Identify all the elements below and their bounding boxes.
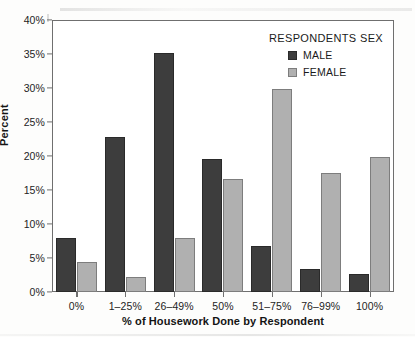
- x-tick-label: 26–49%: [155, 300, 194, 312]
- legend-entries: MALEFEMALE: [262, 49, 390, 78]
- bar-female-1: [126, 277, 146, 292]
- bar-female-6: [370, 157, 390, 292]
- y-tick-label: 20%: [1, 150, 52, 162]
- legend-title: RESPONDENTS SEX: [262, 32, 390, 44]
- y-tick-label: 35%: [1, 48, 52, 60]
- y-tick-label: 10%: [1, 218, 52, 230]
- bar-female-0: [77, 262, 97, 292]
- bar-male-6: [349, 274, 369, 292]
- x-tick-label: 50%: [212, 300, 233, 312]
- x-tick-mark: [223, 292, 224, 297]
- legend-item-label: MALE: [303, 49, 333, 61]
- legend-item-male: MALE: [262, 49, 390, 61]
- x-tick-mark: [125, 292, 126, 297]
- x-tick-mark: [76, 292, 77, 297]
- bar-male-0: [56, 238, 76, 292]
- bar-male-4: [251, 246, 271, 292]
- y-tick-label: 5%: [1, 252, 52, 264]
- bar-female-5: [321, 173, 341, 292]
- legend-item-label: FEMALE: [303, 66, 347, 78]
- y-tick-label: 40%: [1, 14, 52, 26]
- scan-artifact-bottom: [0, 334, 415, 336]
- bar-male-2: [154, 53, 174, 292]
- x-tick-label: 100%: [356, 300, 383, 312]
- y-axis-title: Percent: [0, 104, 10, 146]
- y-tick-label: 30%: [1, 82, 52, 94]
- y-tick-label: 15%: [1, 184, 52, 196]
- bar-group: [199, 20, 248, 292]
- bar-male-1: [105, 137, 125, 292]
- x-tick-mark: [370, 292, 371, 297]
- y-tick-label: 0%: [1, 286, 52, 298]
- bar-male-5: [300, 269, 320, 292]
- x-tick-mark: [174, 292, 175, 297]
- scan-artifact-top: [60, 8, 412, 11]
- x-tick-label: 1–25%: [109, 300, 142, 312]
- x-axis-title: % of Housework Done by Respondent: [52, 315, 394, 327]
- x-tick-label: 76–99%: [301, 300, 340, 312]
- bar-group: [150, 20, 199, 292]
- bar-group: [52, 20, 101, 292]
- bar-female-3: [223, 179, 243, 292]
- bar-female-4: [272, 89, 292, 292]
- legend: RESPONDENTS SEX MALEFEMALE: [262, 32, 390, 78]
- legend-item-female: FEMALE: [262, 66, 390, 78]
- legend-swatch-icon: [288, 51, 297, 60]
- x-tick-label: 51–75%: [252, 300, 291, 312]
- bar-female-2: [175, 238, 195, 292]
- bar-chart-figure: 0%5%10%15%20%25%30%35%40% 0%1–25%26–49%5…: [0, 0, 415, 337]
- x-tick-mark: [321, 292, 322, 297]
- x-tick-label: 0%: [69, 300, 84, 312]
- x-tick-mark: [272, 292, 273, 297]
- legend-swatch-icon: [288, 68, 297, 77]
- bar-group: [101, 20, 150, 292]
- bar-male-3: [202, 159, 222, 292]
